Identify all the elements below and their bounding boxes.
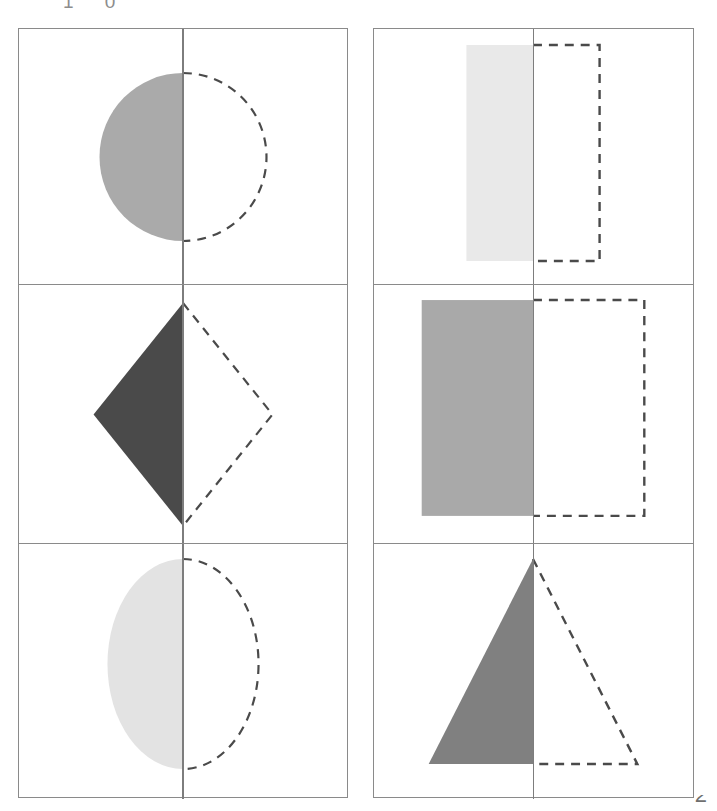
mirror-line	[533, 544, 534, 799]
circle-solid-half	[100, 73, 183, 241]
mirror-line	[533, 285, 534, 543]
mirror-line	[182, 29, 183, 284]
circle-dashed-half	[183, 73, 266, 241]
worksheet-cell-circle[interactable]	[19, 29, 347, 284]
header-text-fragment: 1 0	[0, 0, 717, 24]
worksheet-cell-wide-rectangle[interactable]	[374, 284, 693, 544]
worksheet-grid-left	[18, 28, 348, 798]
narrow-rectangle-dashed-half	[533, 45, 600, 261]
triangle-solid-half	[429, 559, 533, 764]
triangle-dashed-half	[533, 559, 637, 764]
worksheet-cell-diamond[interactable]	[19, 284, 347, 544]
worksheet-grid-right	[373, 28, 694, 798]
worksheet-cell-narrow-rectangle[interactable]	[374, 29, 693, 284]
wide-rectangle-dashed-half	[533, 300, 644, 516]
mirror-line	[182, 544, 183, 799]
footer-text-fragment: 2	[669, 795, 709, 811]
wide-rectangle-solid-half	[422, 300, 533, 516]
mirror-line	[533, 29, 534, 284]
footer-fragment-label: 2	[695, 795, 707, 808]
ellipse-solid-half	[107, 559, 183, 769]
narrow-rectangle-solid-half	[466, 45, 533, 261]
diamond-dashed-half	[183, 303, 272, 526]
worksheet-cell-ellipse[interactable]	[19, 544, 347, 799]
ellipse-dashed-half	[183, 559, 259, 769]
header-fragment-label: 1 0	[63, 0, 128, 13]
worksheet-cell-triangle[interactable]	[374, 544, 693, 799]
diamond-solid-half	[94, 303, 183, 526]
mirror-line	[182, 285, 183, 543]
